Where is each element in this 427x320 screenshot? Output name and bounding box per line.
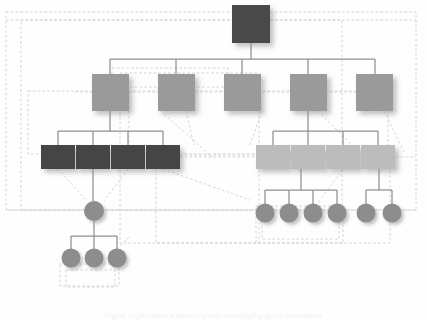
level2-node-1[interactable] [92,74,129,111]
level2-node-group [92,74,393,111]
level3-light-node-2[interactable] [291,145,325,169]
boundary-outer-1 [6,12,416,210]
dashlink-10 [104,169,128,201]
level5-circle-1[interactable] [62,249,81,268]
root-node[interactable] [232,5,270,43]
dashlink-9 [58,169,87,201]
level5-circle-group [62,249,127,268]
level4-circle-right-1[interactable] [256,204,275,223]
boundary-inner-7 [60,264,119,286]
level3-light-node-4[interactable] [361,145,395,169]
boundary-inner-8 [66,270,115,287]
level3-dark-node-2[interactable] [76,145,110,169]
level3-dark-node-4[interactable] [146,145,180,169]
root-node-group [232,5,270,43]
level4-circle-right-3[interactable] [304,204,323,223]
dashed-link-group [6,20,416,249]
level3-light-node-1[interactable] [256,145,290,169]
dashlink-15 [117,236,130,249]
dashlink-7 [318,111,352,145]
level4-circle-right-4[interactable] [328,204,347,223]
level4-circle-right-2[interactable] [280,204,299,223]
level3-light-node-3[interactable] [326,145,360,169]
level5-circle-2[interactable] [85,249,104,268]
diagram-svg [0,0,427,320]
level2-node-4[interactable] [290,74,327,111]
level3-dark-node-3[interactable] [111,145,145,169]
level3-dark-node-1[interactable] [41,145,75,169]
level4-left-circle-group [84,201,104,221]
level5-circle-3[interactable] [108,249,127,268]
dashlink-5 [186,111,194,145]
dashlink-6 [250,111,262,145]
level4-circle-left-1[interactable] [84,201,104,221]
level4-circle-right-6[interactable] [383,204,402,223]
dashlink-12 [318,169,343,203]
figure-caption: Figure organizational hierarchy with ove… [0,312,427,320]
boundary-inner-3 [28,91,388,154]
diagram-canvas: Figure organizational hierarchy with ove… [0,0,427,320]
dashlink-11 [163,169,250,200]
level2-node-2[interactable] [158,74,195,111]
level3-left-node-group [41,145,180,169]
level2-node-5[interactable] [356,74,393,111]
level4-circle-right-5[interactable] [357,204,376,223]
level2-node-3[interactable] [224,74,261,111]
